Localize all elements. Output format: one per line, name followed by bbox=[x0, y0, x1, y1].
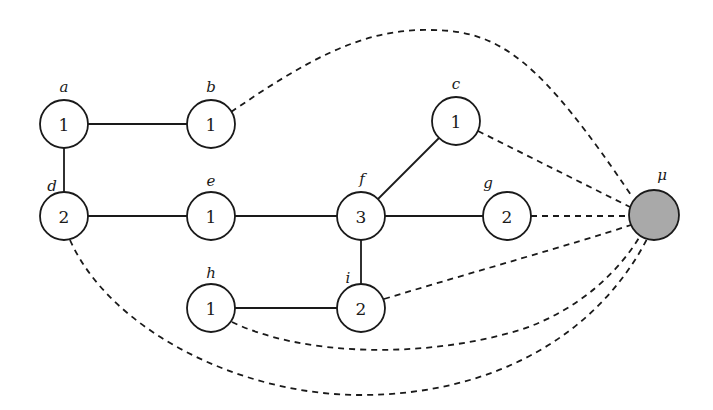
node-value: 1 bbox=[59, 115, 70, 135]
node-label: a bbox=[60, 78, 69, 96]
node-g: 2g bbox=[483, 174, 531, 240]
solid-edges bbox=[64, 121, 507, 308]
node-label: c bbox=[452, 75, 461, 93]
node-value: 1 bbox=[206, 299, 217, 319]
node-c: 1c bbox=[432, 75, 480, 145]
node-label: μ bbox=[657, 166, 667, 184]
node-label: g bbox=[483, 174, 493, 192]
node-value: 2 bbox=[356, 299, 367, 319]
node-label: h bbox=[206, 264, 216, 282]
node-value: 1 bbox=[206, 115, 217, 135]
node-b: 1b bbox=[187, 78, 235, 148]
node-e: 1e bbox=[187, 172, 235, 240]
node-label: e bbox=[207, 172, 216, 190]
node-label: b bbox=[206, 78, 216, 96]
node-label: f bbox=[358, 170, 367, 188]
node-a: 1a bbox=[40, 78, 88, 148]
dashed-edge-b-mu bbox=[231, 30, 633, 198]
node-circle bbox=[629, 190, 679, 240]
node-mu: μ bbox=[629, 166, 679, 240]
dashed-edge-h-mu bbox=[232, 236, 640, 350]
graph-diagram: 1a1b1c2d1e3f2g1h2iμ bbox=[0, 0, 713, 410]
node-f: 3f bbox=[337, 170, 385, 240]
node-value: 2 bbox=[502, 207, 513, 227]
node-label: i bbox=[346, 269, 351, 287]
node-value: 2 bbox=[59, 207, 70, 227]
node-label: d bbox=[47, 177, 57, 195]
node-value: 1 bbox=[451, 112, 462, 132]
node-h: 1h bbox=[187, 264, 235, 332]
node-value: 1 bbox=[206, 207, 217, 227]
nodes: 1a1b1c2d1e3f2g1h2iμ bbox=[40, 75, 679, 332]
node-value: 3 bbox=[356, 207, 367, 227]
